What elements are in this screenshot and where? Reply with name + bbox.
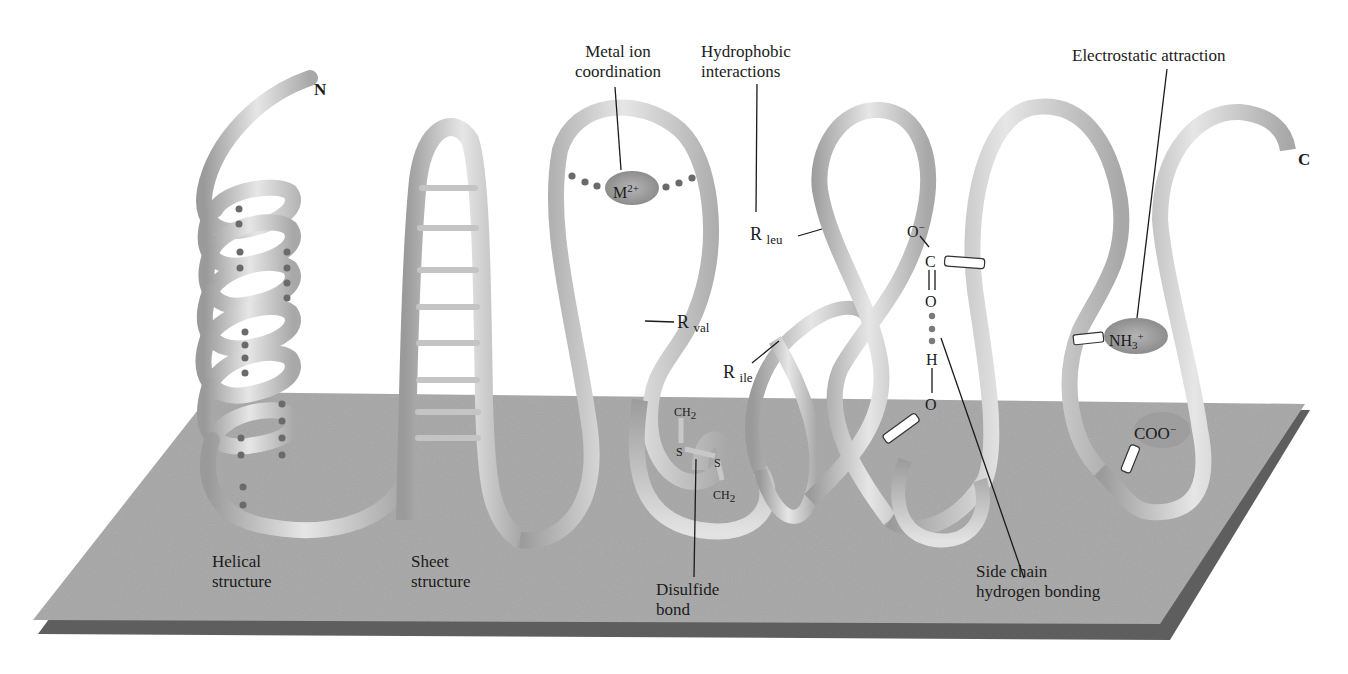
chem-base: M [613, 184, 627, 201]
carbonyl-oxygen-label: O [925, 294, 937, 310]
label-line: Metal ion [552, 42, 684, 62]
metal-ion-label: M2+ [613, 180, 639, 201]
chem-sup: + [1138, 330, 1144, 342]
label-line: hydrogen bonding [976, 582, 1100, 602]
electrostatic-attraction-label: Electrostatic attraction [1072, 46, 1225, 66]
chem-base: R [677, 312, 689, 332]
hydrogen-label: H [926, 352, 938, 368]
label-line: Disulfide [656, 580, 719, 600]
ch2-bottom-label: CH2 [713, 487, 735, 506]
chem-sub: 2 [730, 492, 736, 504]
chem-base: NH [1109, 332, 1132, 349]
chem-sub: ile [740, 370, 753, 385]
label-line: coordination [552, 62, 684, 82]
chem-sup: − [919, 221, 925, 233]
label-line: bond [656, 600, 719, 620]
chem-base: R [723, 362, 735, 382]
r-leu-label: R leu [750, 226, 782, 248]
protein-structure-figure: N C Metal ion coordination Hydrophobic i… [0, 0, 1348, 674]
label-line: Electrostatic attraction [1072, 46, 1225, 66]
chem-base: CH [713, 488, 730, 502]
label-line: Helical [212, 552, 271, 572]
metal-ion-coordination-label: Metal ion coordination [552, 42, 684, 82]
chem-sup: 2+ [627, 182, 639, 194]
label-line: structure [411, 572, 470, 592]
chem-base: R [750, 224, 762, 244]
carboxylate-ion-label: COO− [1134, 421, 1176, 442]
chem-sub: val [694, 320, 710, 335]
label-line: structure [212, 572, 271, 592]
n-terminus-label: N [314, 80, 326, 100]
chem-base: O [907, 223, 919, 240]
c-terminus-label: C [1298, 150, 1310, 170]
label-line: interactions [701, 62, 791, 82]
r-ile-label: R ile [723, 364, 753, 386]
ch2-top-label: CH2 [674, 404, 696, 423]
chem-base: COO [1134, 424, 1170, 443]
r-val-label: R val [677, 314, 709, 336]
hbond-dots [929, 313, 935, 344]
figure-artwork [0, 0, 1348, 674]
sulfur-left-label: S [676, 444, 683, 460]
ammonium-label: NH3+ [1109, 328, 1144, 353]
chem-base: CH [674, 405, 691, 419]
label-line: Hydrophobic [701, 42, 791, 62]
label-line: Sheet [411, 552, 470, 572]
carboxylate-oxygen-label: O− [907, 219, 925, 240]
label-line: Side chain [976, 562, 1100, 582]
chem-sub: 2 [691, 409, 697, 421]
hydrophobic-interactions-label: Hydrophobic interactions [701, 42, 791, 82]
hydroxyl-oxygen-label: O [925, 397, 937, 413]
chem-sup: − [1170, 423, 1176, 435]
disulfide-bond-label: Disulfide bond [656, 580, 719, 620]
chem-sub: leu [767, 232, 783, 247]
side-chain-hydrogen-bonding-label: Side chain hydrogen bonding [976, 562, 1100, 602]
carbon-label: C [925, 254, 936, 270]
sheet-structure-label: Sheet structure [411, 552, 470, 592]
sulfur-right-label: S [714, 455, 721, 471]
helical-structure-label: Helical structure [212, 552, 271, 592]
